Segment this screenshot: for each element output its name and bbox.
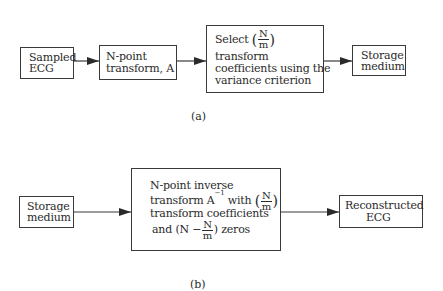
node-line-4: and (N −Nm) zeros [152,219,250,241]
node-line: variance criterion [215,75,311,87]
node-n-point-transform: N-point transform, A [99,45,177,80]
node-line-1: Select (Nm) [215,29,275,50]
node-line: ECG [366,212,391,224]
caption-a: (a) [191,110,206,123]
fraction-n-over-m: Nm [258,29,269,50]
node-select-coefficients: Select (Nm) transform coefficients using… [206,25,324,93]
select-word: Select [215,33,248,46]
node-line: ECG [29,63,54,75]
node-storage-medium-b: Storage medium [19,196,74,228]
node-inverse-transform: N-point inverse transform A−1 with (Nm) … [131,168,281,251]
paren-open: ( [252,32,257,48]
caption-b: (b) [190,278,206,291]
node-line: medium [27,212,71,224]
node-storage-medium-a: Storage medium [352,45,406,76]
node-reconstructed-ecg: Reconstructed ECG [339,195,423,228]
fraction-n-over-m: Nm [202,220,213,241]
node-sampled-ecg: Sampled ECG [20,47,74,79]
node-line: medium [361,61,405,73]
node-line: transform, A [106,63,174,75]
paren-close: ) [270,32,275,48]
